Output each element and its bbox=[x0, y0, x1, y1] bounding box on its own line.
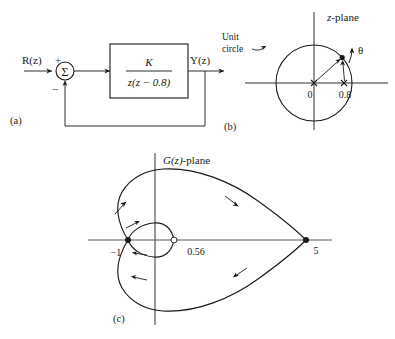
g-plane-label-italic: G(z) bbox=[163, 154, 183, 167]
block-numerator: K bbox=[144, 56, 153, 68]
output-line bbox=[188, 69, 224, 74]
pole-label-origin: 0 bbox=[308, 89, 313, 100]
summing-junction-symbol: Σ bbox=[62, 65, 69, 79]
inner-loop-crossing-marker bbox=[171, 237, 177, 243]
theta-label: θ bbox=[358, 44, 363, 56]
output-signal-label: Y(z) bbox=[190, 54, 210, 67]
arrow-inner-lower bbox=[132, 251, 147, 255]
vector-from-real-pole bbox=[340, 60, 345, 81]
block-denominator: z(z − 0.8) bbox=[127, 76, 171, 89]
panel-b-z-plane: z-plane Unit circle 0 0.8 bbox=[222, 11, 388, 133]
error-signal-line bbox=[74, 69, 110, 74]
control-system-figure: R(z) + Σ − K z(z − 0.8) Y(z) bbox=[0, 0, 395, 339]
figure-container: R(z) + Σ − K z(z − 0.8) Y(z) bbox=[0, 0, 395, 339]
unit-circle-pointer-arrow bbox=[252, 46, 267, 50]
g-plane-label-rest: -plane bbox=[183, 154, 211, 166]
summing-plus-sign: + bbox=[55, 54, 61, 66]
left-crossing-marker bbox=[125, 237, 131, 243]
z-plane-label: z-plane bbox=[326, 11, 359, 23]
left-crossing-label: −1 bbox=[111, 247, 122, 258]
g-plane-label: G(z)-plane bbox=[163, 154, 210, 167]
z-plane-label-rest: -plane bbox=[331, 11, 359, 23]
panel-b-label: (b) bbox=[224, 121, 237, 133]
right-crossing-label: 5 bbox=[314, 245, 319, 256]
arrow-inner-upper bbox=[126, 221, 140, 228]
arrow-lower-left bbox=[131, 275, 147, 280]
right-crossing-marker bbox=[303, 237, 309, 243]
panel-c-nyquist-plot: G(z)-plane bbox=[88, 153, 332, 325]
arrow-upper-left bbox=[115, 202, 127, 215]
vector-from-origin bbox=[316, 59, 341, 81]
summing-minus-sign: − bbox=[52, 83, 58, 95]
inner-loop-crossing-label: 0.56 bbox=[187, 246, 205, 257]
input-signal-label: R(z) bbox=[22, 54, 42, 67]
arrow-upper-right bbox=[225, 196, 239, 206]
input-arrow bbox=[24, 69, 52, 74]
unit-circle-label-line2: circle bbox=[222, 44, 243, 54]
arrow-lower-right bbox=[233, 268, 247, 277]
unit-circle-label-line1: Unit bbox=[222, 32, 239, 42]
pole-label-real: 0.8 bbox=[339, 89, 352, 100]
panel-a-block-diagram: R(z) + Σ − K z(z − 0.8) Y(z) bbox=[10, 44, 224, 127]
panel-a-label: (a) bbox=[10, 115, 22, 127]
panel-c-label: (c) bbox=[113, 313, 125, 325]
